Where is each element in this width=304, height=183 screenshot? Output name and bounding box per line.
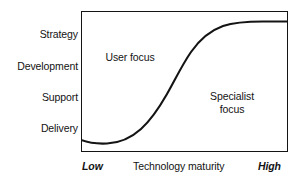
y-axis-label-strategy: Strategy — [40, 29, 78, 40]
technology-maturity-chart: Strategy Development Support Delivery Us… — [0, 0, 304, 183]
region-label-specialist-focus-line2: focus — [199, 103, 265, 116]
region-label-user-focus: User focus — [96, 51, 164, 64]
x-axis-title: Technology maturity — [133, 161, 224, 172]
y-axis-label-development: Development — [17, 61, 78, 72]
technology-maturity-curve — [81, 11, 288, 152]
region-label-specialist-focus-line1: Specialist — [199, 90, 265, 103]
y-axis-label-delivery: Delivery — [41, 123, 78, 134]
x-axis-label-low: Low — [82, 161, 103, 172]
region-label-specialist-focus: Specialist focus — [199, 90, 265, 115]
y-axis-label-support: Support — [42, 92, 78, 103]
x-axis-label-high: High — [258, 161, 281, 172]
